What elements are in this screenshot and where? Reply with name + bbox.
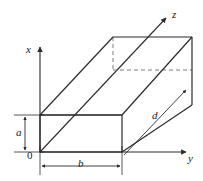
figure-container: x y z 0 a b d: [0, 0, 203, 181]
dimension-d-group: [124, 90, 186, 155]
z-axis-line: [40, 18, 166, 152]
origin-label: 0: [27, 150, 33, 161]
dimension-label-d: d: [152, 110, 158, 121]
axis-label-x: x: [26, 44, 31, 55]
dimension-d-arrow-line: [124, 90, 186, 155]
box-visible-edges: [40, 37, 192, 152]
top-face-left-edge: [40, 37, 113, 115]
axis-label-y: y: [188, 153, 193, 164]
top-face-right-edge: [122, 37, 192, 115]
axis-label-z: z: [172, 9, 176, 20]
dimension-label-b: b: [78, 158, 84, 169]
box-hidden-edges: [113, 37, 192, 70]
dimension-label-a: a: [16, 127, 22, 138]
front-face: [40, 115, 122, 152]
